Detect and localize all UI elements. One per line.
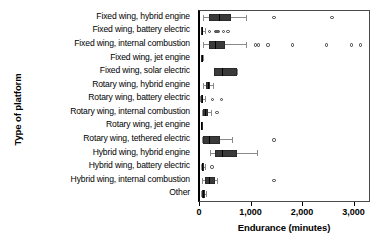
median-line: [222, 68, 223, 76]
box-plot-row: [200, 52, 369, 66]
median-line: [209, 136, 210, 144]
outlier-point: [215, 111, 218, 114]
median-line: [202, 27, 203, 35]
outlier-point: [291, 43, 294, 46]
outlier-point: [272, 138, 275, 141]
x-axis-tick: [199, 202, 200, 206]
box-plot-row: [200, 147, 369, 161]
y-axis-tick-label: Rotary wing, tethered electric: [14, 134, 190, 143]
box-plot-row: [200, 38, 369, 52]
x-axis-tick: [354, 202, 355, 206]
outlier-point: [217, 30, 220, 33]
median-line: [209, 177, 210, 185]
outlier-point: [222, 30, 225, 33]
outlier-point: [208, 30, 211, 33]
whisker-cap-lower: [203, 83, 204, 89]
y-axis-tick-label: Fixed wing, battery electric: [14, 25, 190, 34]
median-line: [215, 41, 216, 49]
whisker-cap-upper: [246, 15, 247, 21]
median-line: [202, 163, 203, 171]
x-axis-tick-label: 3,000: [342, 207, 365, 217]
y-axis-tick-label: Fixed wing, solar electric: [14, 66, 190, 75]
whisker-cap-lower: [202, 178, 203, 184]
median-line: [219, 14, 220, 22]
outlier-point: [350, 43, 353, 46]
box-plot-row: [200, 11, 369, 25]
y-axis-tick-label: Hybrid wing, battery electric: [14, 161, 190, 170]
y-axis-tick-label: Other: [14, 188, 190, 197]
median-line: [205, 109, 206, 117]
whisker-cap-upper: [205, 96, 206, 102]
box-plot-row: [200, 120, 369, 134]
outlier-point: [257, 43, 260, 46]
y-axis-tick-label: Hybrid wing, internal combustion: [14, 175, 190, 184]
box-plot-row: [200, 92, 369, 106]
outlier-point: [210, 165, 213, 168]
whisker-cap-upper: [232, 137, 233, 143]
outlier-point: [330, 16, 333, 19]
plot-series-layer: [200, 11, 369, 201]
box-iqr: [209, 14, 231, 22]
y-axis-tick-label: Rotary wing, hybrid engine: [14, 80, 190, 89]
whisker-cap-upper: [206, 191, 207, 197]
x-axis-tick-labels: 01,0002,0003,000: [198, 207, 370, 219]
whisker-cap-lower: [210, 150, 211, 156]
whisker-upper: [231, 17, 246, 18]
box-iqr: [215, 150, 237, 158]
outlier-point: [266, 43, 269, 46]
outlier-point: [211, 98, 214, 101]
box-plot-figure: Type of platform Fixed wing, hybrid engi…: [0, 0, 377, 249]
median-line: [203, 190, 204, 198]
whisker-cap-upper: [217, 178, 218, 184]
x-axis-tick: [302, 202, 303, 206]
median-line: [201, 122, 202, 130]
x-axis-title: Endurance (minutes): [198, 222, 370, 233]
outlier-point: [220, 98, 223, 101]
whisker-cap-lower: [203, 42, 204, 48]
box-plot-row: [200, 106, 369, 120]
y-axis-tick-label: Fixed wing, internal combustion: [14, 39, 190, 48]
box-plot-row: [200, 133, 369, 147]
median-line: [202, 95, 203, 103]
median-line: [202, 55, 203, 63]
y-axis-tick-label: Rotary wing, jet engine: [14, 120, 190, 129]
whisker-upper: [237, 153, 257, 154]
median-line: [208, 82, 209, 90]
outlier-point: [272, 179, 275, 182]
y-axis-tick-label: Fixed wing, jet engine: [14, 53, 190, 62]
x-axis-tick-label: 1,000: [239, 207, 262, 217]
outlier-point: [226, 30, 229, 33]
whisker-cap-upper: [237, 69, 238, 75]
box-plot-row: [200, 160, 369, 174]
x-axis-tick-label: 2,000: [291, 207, 314, 217]
median-line: [222, 150, 223, 158]
whisker-cap-upper: [257, 150, 258, 156]
plot-area: [198, 10, 370, 202]
y-axis-tick-label: Hybrid wing, hybrid engine: [14, 148, 190, 157]
whisker-cap-upper: [246, 42, 247, 48]
whisker-cap-upper: [213, 83, 214, 89]
box-iqr: [214, 68, 237, 76]
box-plot-row: [200, 174, 369, 188]
outlier-point: [325, 43, 328, 46]
box-plot-row: [200, 79, 369, 93]
outlier-point: [359, 43, 362, 46]
whisker-cap-upper: [205, 28, 206, 34]
whisker-cap-lower: [203, 15, 204, 21]
box-plot-row: [200, 65, 369, 79]
outlier-point: [272, 16, 275, 19]
x-axis-tick-label: 0: [196, 207, 201, 217]
box-iqr: [203, 136, 220, 144]
y-axis-tick-label: Rotary wing, internal combustion: [14, 107, 190, 116]
x-axis-tick: [251, 202, 252, 206]
box-iqr: [209, 41, 224, 49]
whisker-cap-upper: [205, 164, 206, 170]
whisker-upper: [225, 44, 247, 45]
whisker-upper: [220, 139, 232, 140]
y-axis-tick-labels: Fixed wing, hybrid engineFixed wing, bat…: [18, 10, 194, 202]
y-axis-tick-label: Fixed wing, hybrid engine: [14, 12, 190, 21]
box-plot-row: [200, 25, 369, 39]
whisker-cap-upper: [211, 110, 212, 116]
box-plot-row: [200, 187, 369, 201]
y-axis-tick-label: Rotary wing, battery electric: [14, 93, 190, 102]
